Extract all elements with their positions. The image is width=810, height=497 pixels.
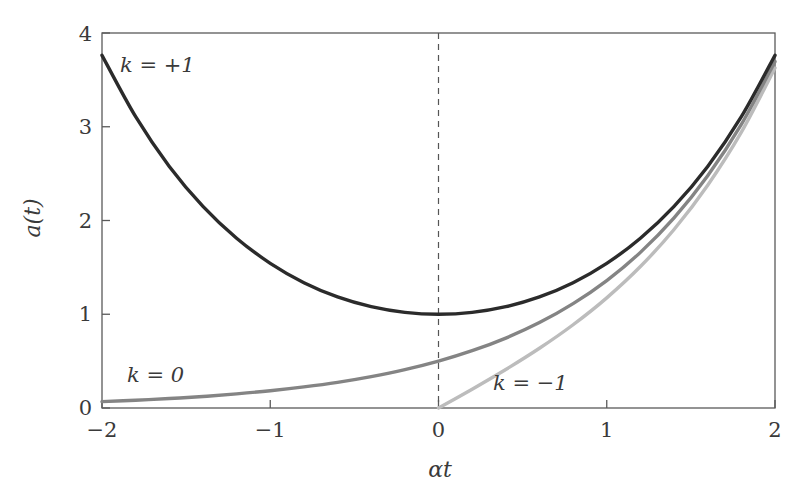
annotation-k-plus-1: k = +1 <box>120 53 195 77</box>
annotation-k-minus-1: k = −1 <box>493 371 568 395</box>
annotation-k-zero: k = 0 <box>127 363 184 387</box>
y-tick-label-1: 1 <box>79 302 92 326</box>
y-axis-title: a(t) <box>20 198 45 237</box>
x-tick-labels: −2 −1 0 1 2 <box>87 418 782 442</box>
x-tick-label-neg2: −2 <box>87 418 118 442</box>
x-tick-label-0: 0 <box>432 418 445 442</box>
y-tick-label-4: 4 <box>79 22 92 46</box>
x-tick-label-1: 1 <box>600 418 613 442</box>
y-tick-labels: 0 1 2 3 4 <box>79 22 92 420</box>
y-axis-ticks <box>102 33 110 408</box>
chart-svg: 0 1 2 3 4 −2 −1 0 1 2 αt a(t) k = +1 k = <box>0 0 810 497</box>
x-axis-title: αt <box>428 457 452 482</box>
y-tick-label-2: 2 <box>79 209 92 233</box>
y-tick-label-0: 0 <box>79 396 92 420</box>
x-tick-label-neg1: −1 <box>255 418 286 442</box>
series-annotations: k = +1 k = 0 k = −1 <box>120 53 568 395</box>
chart-figure: 0 1 2 3 4 −2 −1 0 1 2 αt a(t) k = +1 k = <box>0 0 810 497</box>
curve-k-minus-1 <box>439 68 776 408</box>
x-tick-label-2: 2 <box>768 418 781 442</box>
y-tick-label-3: 3 <box>79 115 92 139</box>
